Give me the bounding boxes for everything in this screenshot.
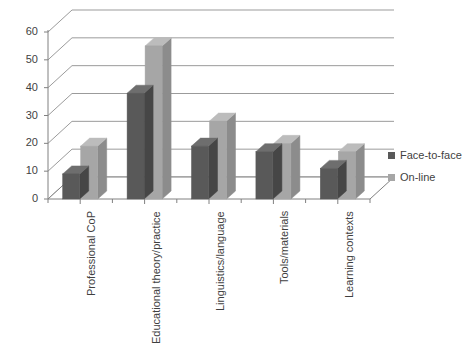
chart-legend: Face-to-faceOn-line (388, 150, 462, 194)
legend-item-0[interactable]: Face-to-face (388, 150, 462, 161)
y-tick-label-20: 20 (12, 137, 38, 148)
y-tick-label-40: 40 (12, 82, 38, 93)
y-tick-label-0: 0 (12, 193, 38, 204)
legend-label-1: On-line (400, 172, 435, 183)
bar-face-to-face-2 (192, 138, 218, 199)
y-tick-label-10: 10 (12, 165, 38, 176)
bar-face-to-face-0 (63, 166, 89, 199)
x-category-label-3: Tools/materials (279, 211, 290, 284)
legend-swatch-icon-0 (388, 152, 395, 159)
x-category-label-4: Learning contexts (344, 211, 355, 298)
gridline-30 (48, 94, 394, 116)
x-category-label-1: Educational theory/practice (151, 211, 162, 344)
y-tick-label-50: 50 (12, 54, 38, 65)
gridline-50 (48, 38, 394, 60)
legend-swatch-icon-1 (388, 174, 395, 181)
gridline-60 (48, 10, 394, 32)
x-category-label-0: Professional CoP (86, 211, 97, 296)
gridline-40 (48, 66, 394, 88)
x-category-label-2: Linguistics/language (215, 211, 226, 311)
bar-chart: 0102030405060 Professional CoPEducationa… (0, 0, 468, 351)
legend-item-1[interactable]: On-line (388, 172, 462, 183)
y-tick-label-30: 30 (12, 110, 38, 121)
bar-face-to-face-1 (127, 85, 153, 199)
legend-label-0: Face-to-face (400, 150, 462, 161)
bar-face-to-face-3 (256, 144, 282, 199)
y-tick-label-60: 60 (12, 26, 38, 37)
bar-face-to-face-4 (320, 160, 346, 199)
